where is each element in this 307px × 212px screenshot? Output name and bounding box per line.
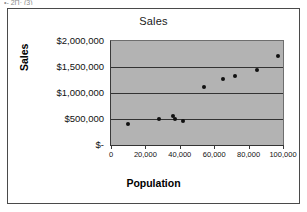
x-tick-mark: [180, 145, 181, 149]
y-tick-label: $1,500,000: [56, 61, 104, 72]
y-tick-label: $500,000: [64, 113, 104, 124]
data-point-marker: [221, 77, 225, 81]
gridline-horizontal: [111, 93, 283, 94]
gridline-horizontal: [111, 145, 283, 146]
y-tick-label: $2,000,000: [56, 35, 104, 46]
data-point-marker: [157, 117, 161, 121]
x-tick-mark: [283, 145, 284, 149]
data-point-marker: [173, 117, 177, 121]
x-tick-label: 80,000: [237, 150, 260, 159]
x-tick-label: 40,000: [168, 150, 191, 159]
y-axis-tick-labels: $-$500,000$1,000,000$1,500,000$2,000,000: [8, 40, 104, 144]
x-tick-mark: [145, 145, 146, 149]
clipped-header-text: •- 2Π· (3): [4, 0, 33, 5]
x-tick-mark: [249, 145, 250, 149]
x-axis-title: Population: [8, 177, 299, 189]
y-tick-label: $1,000,000: [56, 87, 104, 98]
chart-title: Sales: [8, 15, 299, 27]
x-tick-mark: [214, 145, 215, 149]
x-tick-label: 0: [109, 150, 113, 159]
plot-area: [110, 40, 284, 146]
data-point-marker: [233, 74, 237, 78]
data-point-marker: [255, 68, 259, 72]
x-tick-label: 60,000: [203, 150, 226, 159]
data-point-marker: [276, 54, 280, 58]
data-point-marker: [126, 122, 130, 126]
y-tick-label: $-: [96, 139, 104, 150]
data-point-marker: [181, 119, 185, 123]
x-axis-tick-labels: 020,00040,00060,00080,000100,000: [110, 150, 284, 164]
x-tick-label: 20,000: [134, 150, 157, 159]
chart-container: Sales Sales $-$500,000$1,000,000$1,500,0…: [7, 8, 300, 204]
x-tick-label: 100,000: [269, 150, 296, 159]
data-point-marker: [202, 85, 206, 89]
gridline-horizontal: [111, 119, 283, 120]
x-tick-mark: [111, 145, 112, 149]
